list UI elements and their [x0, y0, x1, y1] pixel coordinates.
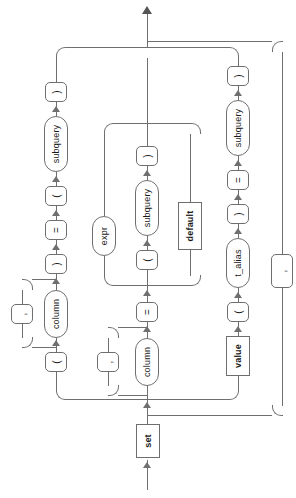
- exit-line: [147, 12, 148, 48]
- token-comma-outer[interactable]: ,: [271, 254, 293, 288]
- token-lparen-1[interactable]: (: [45, 352, 67, 372]
- token-lparen-3-label: (: [142, 258, 153, 262]
- terminal-set[interactable]: set: [136, 424, 160, 458]
- token-eq-2-label: =: [142, 309, 153, 315]
- rule-column-a[interactable]: column: [44, 290, 68, 338]
- token-lparen-3[interactable]: (: [136, 250, 158, 270]
- b3-arrow-2-icon: [234, 292, 242, 298]
- b2-alt-expr-tail: [104, 134, 105, 216]
- b1-arrow-3-icon: [52, 244, 60, 250]
- b1-arrow-5-icon: [52, 176, 60, 182]
- diagram-stage: set ( column , ) = ( su: [0, 0, 296, 498]
- b2-join-spine: [114, 123, 190, 124]
- b3-arrow-3-icon: [234, 228, 242, 234]
- rule-subquery-b[interactable]: subquery: [135, 180, 159, 236]
- token-eq-2[interactable]: =: [136, 302, 158, 322]
- b2-loop-top-a: [108, 372, 109, 386]
- b1-loop-top-b: [22, 290, 23, 304]
- b2-loop-top-b: [108, 338, 109, 352]
- b2-loop-corner-right: [108, 327, 119, 338]
- b1-loop-corner-right: [22, 279, 33, 290]
- terminal-set-label: set: [143, 434, 153, 448]
- exit-arrow-icon: [142, 6, 152, 14]
- b3-arrow-4-icon: [234, 194, 242, 200]
- token-lparen-1-label: (: [51, 360, 62, 364]
- b2-arrow-2-icon: [143, 290, 151, 296]
- rule-t-alias-label: t_alias: [233, 249, 243, 276]
- rule-t-alias[interactable]: t_alias: [226, 238, 250, 288]
- token-eq-1[interactable]: =: [45, 220, 67, 240]
- rule-expr-label: expr: [99, 227, 109, 245]
- rule-subquery-a-label: subquery: [51, 125, 61, 164]
- token-rparen-4[interactable]: ): [227, 204, 249, 224]
- b2-lead: [147, 386, 148, 400]
- outer-loop-right-riser: [147, 41, 272, 42]
- b3-lead: [238, 376, 239, 390]
- outer-loop-bottom-a: [282, 288, 283, 406]
- rule-column-b-label: column: [142, 347, 152, 377]
- join-corner-bottom: [228, 47, 239, 58]
- b3-arrow-5-icon: [234, 160, 242, 166]
- b2-alt-default-lead: [190, 250, 191, 276]
- token-rparen-3-label: ): [142, 154, 153, 158]
- rule-subquery-c[interactable]: subquery: [226, 100, 250, 156]
- b2-loop-left-drop: [118, 395, 147, 396]
- b1-arrow-1-icon: [52, 340, 60, 346]
- b2-alt-sq-arrow-2-icon: [143, 170, 151, 176]
- rule-expr[interactable]: expr: [92, 216, 116, 256]
- b1-arrow-6-icon: [52, 106, 60, 112]
- b1-arrow-4-icon: [52, 210, 60, 216]
- b2-join-corner-top: [104, 123, 115, 134]
- b3-arrow-6-icon: [234, 90, 242, 96]
- token-rparen-2[interactable]: ): [45, 82, 67, 102]
- terminal-default-label: default: [185, 211, 195, 242]
- b1-arrow-2-icon: [52, 278, 60, 284]
- token-rparen-3[interactable]: ): [136, 146, 158, 166]
- token-lparen-2[interactable]: (: [45, 186, 67, 206]
- rule-subquery-b-label: subquery: [142, 189, 152, 228]
- token-rparen-2-label: ): [51, 90, 62, 94]
- token-comma-2-label: ,: [103, 361, 114, 364]
- token-eq-3[interactable]: =: [227, 170, 249, 190]
- rule-column-b[interactable]: column: [135, 338, 159, 386]
- token-comma-1-label: ,: [17, 313, 28, 316]
- token-lparen-4-label: (: [233, 310, 244, 314]
- b1-tail: [56, 58, 57, 82]
- b2-alt-sq-lead: [147, 270, 148, 286]
- token-comma-outer-label: ,: [277, 270, 288, 273]
- b2-tail: [147, 58, 148, 124]
- set-out-arrow-icon: [143, 402, 151, 408]
- b2-join-corner-bottom: [190, 123, 201, 134]
- token-rparen-4-label: ): [233, 212, 244, 216]
- token-lparen-4[interactable]: (: [227, 302, 249, 322]
- token-rparen-5-label: ): [233, 74, 244, 78]
- rule-column-a-label: column: [51, 299, 61, 329]
- fan-corner-bottom: [228, 389, 239, 400]
- b1-loop-left-drop: [32, 347, 56, 348]
- rule-subquery-c-label: subquery: [233, 109, 243, 148]
- token-rparen-5[interactable]: ): [227, 66, 249, 86]
- token-eq-3-label: =: [233, 177, 244, 183]
- b2-alt-sq-tail: [147, 124, 148, 146]
- token-eq-1-label: =: [51, 227, 62, 233]
- outer-loop-left-riser: [147, 415, 272, 416]
- rule-subquery-a[interactable]: subquery: [44, 116, 68, 172]
- token-comma-2[interactable]: ,: [97, 352, 119, 372]
- b2-alt-default-tail: [190, 134, 191, 202]
- token-rparen-1[interactable]: ): [45, 254, 67, 274]
- join-corner-top: [56, 47, 67, 58]
- token-rparen-1-label: ): [51, 262, 62, 266]
- b2-alt-spine: [114, 285, 190, 286]
- outer-loop-corner-right: [272, 41, 283, 52]
- b1-loop-top-a: [22, 324, 23, 338]
- b2-alt-sq-arrow-1-icon: [143, 240, 151, 246]
- terminal-value-label: value: [233, 344, 243, 368]
- token-lparen-2-label: (: [51, 194, 62, 198]
- terminal-value[interactable]: value: [226, 336, 250, 376]
- terminal-default[interactable]: default: [178, 202, 202, 250]
- b2-alt-corner-bottom: [190, 275, 201, 286]
- token-comma-1[interactable]: ,: [11, 304, 33, 324]
- b2-alt-expr-lead: [104, 256, 105, 276]
- b2-arrow-1-icon: [143, 326, 151, 332]
- b1-lead: [56, 372, 57, 390]
